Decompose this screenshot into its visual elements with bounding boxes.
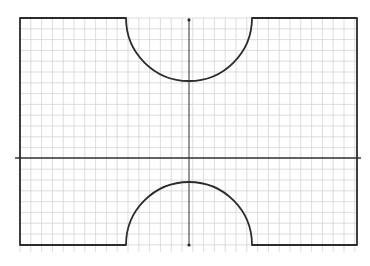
diagram-canvas	[0, 0, 370, 266]
axis-endpoint-dot	[187, 243, 190, 246]
coordinate-axes	[15, 18, 361, 246]
axis-endpoint-dot	[187, 18, 190, 21]
